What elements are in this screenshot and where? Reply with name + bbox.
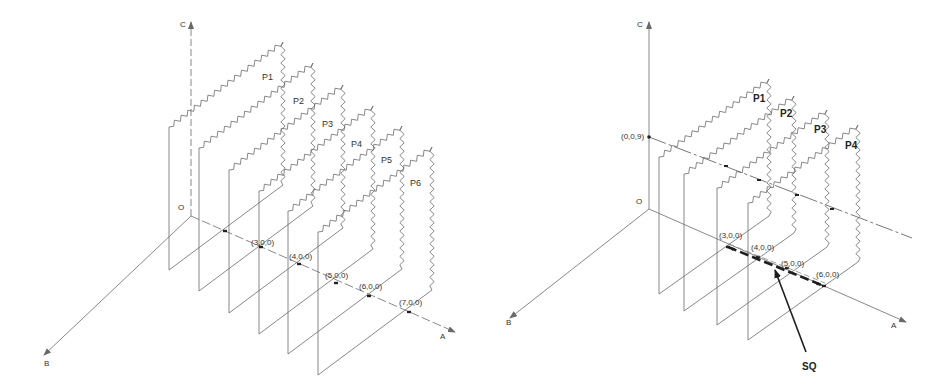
plane-label: P3 — [322, 119, 333, 129]
axis-point-label: (3,0,0) — [251, 238, 274, 247]
plane-far-break-line — [341, 85, 345, 228]
plane-bottom-edge — [684, 233, 794, 311]
c-axis-label: C — [637, 20, 643, 29]
plane-far-break-line — [400, 126, 404, 269]
sq-sequence-path — [728, 247, 824, 286]
axis-point-label: (3,0,0) — [719, 231, 742, 240]
axis-point-dot — [407, 311, 411, 313]
cut-intersection-dot — [830, 208, 834, 210]
plane-bottom-edge — [169, 185, 283, 270]
plane-bottom-edge — [659, 216, 769, 294]
b-axis-label: B — [506, 318, 511, 327]
a-axis — [191, 216, 455, 332]
plane-top-break-line — [748, 125, 858, 203]
axis-point-dot — [297, 263, 301, 265]
sq-label: SQ — [802, 361, 817, 372]
plane-bottom-edge — [259, 249, 373, 334]
plane-p1: P1 — [169, 42, 285, 270]
axis-point-label: (6,0,0) — [816, 270, 839, 279]
origin-label: O — [178, 203, 184, 212]
plane-p6: P6 — [318, 147, 434, 375]
plane-label: P5 — [381, 155, 392, 165]
right-panel: P1P2P3P4CBAO(0,0,9)(3,0,0)(4,0,0)(5,0,0)… — [506, 20, 912, 372]
plane-bottom-edge — [748, 262, 858, 340]
plane-p5: P5 — [288, 126, 404, 354]
axis-point-dot — [367, 295, 371, 297]
axis-point-label: (4,0,0) — [289, 252, 312, 261]
plane-p2: P2 — [684, 96, 796, 311]
cut-intersection-dot — [795, 194, 799, 196]
plane-label: P2 — [293, 96, 304, 106]
figure-canvas: P1P2P3P4P5P6CBAO(3,0,0)(4,0,0)(5,0,0)(6,… — [0, 0, 950, 386]
plane-far-break-line — [281, 42, 285, 185]
axis-point-label: (4,0,0) — [751, 243, 774, 252]
axis-point-dot — [223, 230, 227, 232]
plane-p4: P4 — [259, 106, 375, 334]
plane-bottom-edge — [717, 247, 827, 325]
c-axis-label: C — [180, 20, 186, 29]
plane-far-break-line — [430, 147, 434, 290]
plane-top-break-line — [169, 42, 283, 127]
cut-line-c9 — [649, 137, 912, 238]
b-axis — [510, 209, 649, 318]
a-axis-label: A — [440, 332, 446, 341]
axis-point-dot — [334, 282, 338, 284]
plane-far-break-line — [371, 106, 375, 249]
plane-bottom-edge — [199, 206, 313, 291]
b-axis-label: B — [44, 359, 49, 368]
plane-far-break-line — [792, 96, 796, 233]
sq-pointer-arrow — [775, 270, 806, 352]
plane-label: P6 — [410, 178, 421, 188]
plane-label: P3 — [814, 124, 827, 135]
plane-p1: P1 — [659, 79, 771, 294]
b-axis — [44, 216, 191, 355]
point-0-0-9 — [647, 135, 651, 139]
cut-intersection-dot — [724, 165, 728, 167]
plane-p4: P4 — [748, 125, 860, 340]
cut-intersection-dot — [757, 179, 761, 181]
plane-label: P2 — [780, 108, 793, 119]
plane-p3: P3 — [717, 110, 829, 325]
plane-label: P1 — [753, 93, 766, 104]
origin-label: O — [636, 197, 642, 206]
plane-label: P1 — [262, 72, 273, 82]
point-0-0-9-label: (0,0,9) — [621, 132, 644, 141]
plane-label: P4 — [351, 139, 362, 149]
plane-top-break-line — [717, 110, 827, 188]
a-axis-label: A — [891, 321, 897, 330]
plane-label: P4 — [845, 140, 858, 151]
axis-point-label: (5,0,0) — [325, 271, 348, 280]
axis-point-label: (6,0,0) — [359, 282, 382, 291]
left-panel: P1P2P3P4P5P6CBAO(3,0,0)(4,0,0)(5,0,0)(6,… — [44, 20, 455, 375]
plane-top-break-line — [659, 79, 769, 157]
plane-far-break-line — [311, 63, 315, 206]
coordinate-planes-diagram: P1P2P3P4P5P6CBAO(3,0,0)(4,0,0)(5,0,0)(6,… — [0, 0, 950, 386]
axis-point-label: (7,0,0) — [399, 298, 422, 307]
plane-bottom-edge — [288, 269, 402, 354]
a-axis — [649, 209, 906, 322]
plane-top-break-line — [684, 96, 794, 174]
